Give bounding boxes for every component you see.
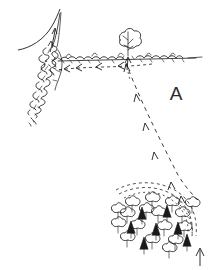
label-a: A	[170, 83, 183, 104]
sketch-background	[0, 0, 218, 270]
field-sketch-canvas: A	[0, 0, 218, 270]
field-sketch-drawing: A	[0, 0, 218, 270]
